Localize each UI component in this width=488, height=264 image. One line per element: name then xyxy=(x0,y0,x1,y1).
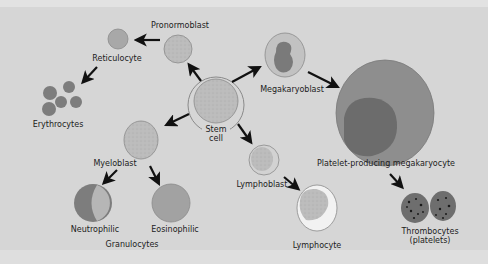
label-platelets: (platelets) xyxy=(410,236,451,245)
myeloblast-cell: Myeloblast xyxy=(93,121,158,168)
megakaryoblast-cell: Megakaryoblast xyxy=(260,33,324,94)
arrow-myeloblast-to-eosinophilic xyxy=(150,166,158,182)
label-pronormoblast: Pronormoblast xyxy=(151,21,209,30)
label-lymphoblast: Lymphoblast xyxy=(237,180,288,189)
arrow-megakaryoblast-to-megakaryocyte xyxy=(308,72,336,86)
label-thrombocytes: Thrombocytes xyxy=(400,227,458,236)
label-reticulocyte: Reticulocyte xyxy=(92,54,141,63)
arrow-reticulocyte-to-erythrocytes xyxy=(84,67,97,81)
label-granulocytes: Granulocytes xyxy=(105,240,158,249)
arrow-myeloblast-to-neutrophilic xyxy=(105,170,117,182)
label-platelet-producing-megakaryocyte: Platelet-producing megakaryocyte xyxy=(317,159,455,168)
eosinophilic-cell: Eosinophilic xyxy=(151,184,199,234)
arrow-megakaryocyte-to-thrombocytes xyxy=(390,174,401,186)
pronormoblast-cell: Pronormoblast xyxy=(151,21,209,63)
arrow-stem-to-myeloblast xyxy=(168,114,189,124)
label-megakaryoblast: Megakaryoblast xyxy=(260,85,324,94)
arrow-stem-to-pronormoblast xyxy=(190,66,201,81)
hematopoiesis-diagram: Stem cell Pronormoblast Reticulocyte Ery… xyxy=(0,0,488,264)
reticulocyte-cell: Reticulocyte xyxy=(92,29,141,63)
label-cell: cell xyxy=(209,134,223,143)
label-myeloblast: Myeloblast xyxy=(93,159,136,168)
erythrocytes-cells: Erythrocytes xyxy=(33,81,84,129)
arrow-stem-to-lymphoblast xyxy=(238,124,250,141)
lymphocyte-cell: Lymphocyte xyxy=(293,185,342,250)
label-lymphocyte: Lymphocyte xyxy=(293,241,342,250)
label-stem: Stem xyxy=(206,125,227,134)
label-erythrocytes: Erythrocytes xyxy=(33,120,84,129)
label-neutrophilic: Neutrophilic xyxy=(71,225,119,234)
lymphoblast-cell: Lymphoblast xyxy=(237,145,288,189)
diagram-canvas: Stem cell Pronormoblast Reticulocyte Ery… xyxy=(0,0,488,264)
megakaryocyte-cell: Platelet-producing megakaryocyte xyxy=(317,60,455,168)
stem-cell-body xyxy=(194,79,238,123)
stem-cell: Stem cell xyxy=(188,77,244,144)
arrow-stem-to-megakaryoblast xyxy=(232,68,258,82)
thrombocytes-cells: Thrombocytes (platelets) xyxy=(400,191,458,245)
neutrophilic-cell: Neutrophilic xyxy=(71,184,119,234)
label-eosinophilic: Eosinophilic xyxy=(151,225,199,234)
